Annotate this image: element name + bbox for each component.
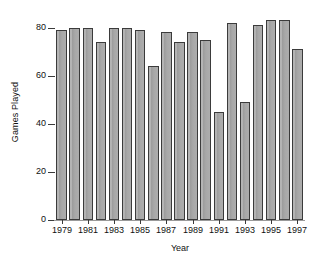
x-tick-mark <box>193 220 194 224</box>
y-tick-label: 40 <box>6 119 46 128</box>
y-tick-label: 80 <box>6 23 46 32</box>
bar <box>161 32 171 220</box>
x-tick-mark <box>166 220 167 224</box>
bar-chart: Games Played 020406080 19791981198319851… <box>0 0 314 266</box>
bar <box>56 30 66 220</box>
bar <box>266 20 276 220</box>
x-tick-mark <box>62 220 63 224</box>
bar <box>96 42 106 220</box>
bar <box>200 40 210 220</box>
bar <box>122 28 132 220</box>
x-tick-mark <box>245 220 246 224</box>
y-tick-label: 60 <box>6 71 46 80</box>
y-tick-mark <box>48 124 55 125</box>
x-tick-mark <box>219 220 220 224</box>
bar <box>187 32 197 220</box>
y-tick-label: 20 <box>6 167 46 176</box>
bar <box>240 102 250 220</box>
x-axis-line <box>54 220 305 221</box>
x-tick-mark <box>140 220 141 224</box>
bar <box>279 20 289 220</box>
bar <box>135 30 145 220</box>
y-tick-mark <box>48 172 55 173</box>
x-tick-mark <box>114 220 115 224</box>
bar <box>148 66 158 220</box>
bar <box>292 49 302 220</box>
bar <box>109 28 119 220</box>
y-axis-title: Games Played <box>10 12 24 212</box>
x-tick-mark <box>271 220 272 224</box>
y-tick-label: 0 <box>6 215 46 224</box>
y-tick-mark <box>48 28 55 29</box>
x-tick-mark <box>88 220 89 224</box>
bar <box>214 112 224 220</box>
bar <box>174 42 184 220</box>
bar <box>253 25 263 220</box>
bar <box>83 28 93 220</box>
x-axis-title: Year <box>55 243 305 253</box>
bar <box>227 23 237 220</box>
y-tick-mark <box>48 76 55 77</box>
x-tick-mark <box>297 220 298 224</box>
bar <box>69 28 79 220</box>
x-tick-label: 1997 <box>277 226 314 235</box>
plot-area <box>55 18 304 220</box>
